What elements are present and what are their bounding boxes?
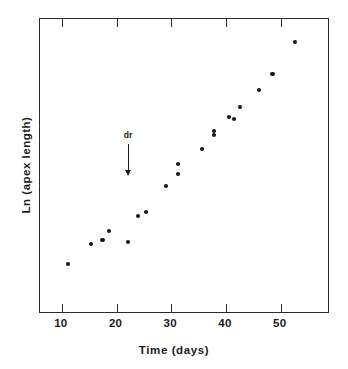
data-point (270, 72, 274, 76)
data-point (100, 238, 104, 242)
x-axis-tick-top (226, 19, 227, 27)
x-axis-tick-bottom (226, 304, 227, 312)
x-axis-tick-top (171, 19, 172, 27)
x-axis-tick-label: 10 (54, 317, 67, 329)
x-axis-tick-label: 40 (218, 317, 231, 329)
annotation-dr-arrow-head (125, 170, 131, 176)
annotation-dr-arrow-shaft (128, 144, 129, 171)
annotation-dr-label: dr (124, 130, 133, 140)
x-axis-tick-bottom (281, 304, 282, 312)
x-axis-tick-bottom (62, 304, 63, 312)
x-axis-tick-bottom (171, 304, 172, 312)
x-axis-tick-label: 20 (109, 317, 122, 329)
data-point (232, 117, 236, 121)
x-axis-tick-label: 30 (164, 317, 177, 329)
x-axis-tick-bottom (117, 304, 118, 312)
scatter-plot-figure: 1020304050 dr Time (days) Ln (apex lengt… (0, 0, 348, 369)
x-axis-tick-label: 50 (273, 317, 286, 329)
plot-frame (39, 18, 329, 313)
x-axis-tick-top (62, 19, 63, 27)
x-axis-tick-top (281, 19, 282, 27)
x-axis-tick-top (117, 19, 118, 27)
y-axis-title: Ln (apex length) (20, 65, 32, 265)
x-axis-title: Time (days) (0, 344, 348, 356)
